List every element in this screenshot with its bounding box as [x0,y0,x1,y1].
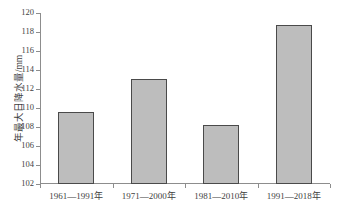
x-axis-label: 1991—2018年 [267,190,321,202]
y-tick-label: 102 [21,178,34,189]
x-tick-mark [40,184,41,188]
y-tick-label: 118 [22,26,34,37]
y-tick-mark [36,165,40,166]
y-tick-label: 104 [21,159,34,170]
x-tick-mark [258,184,259,188]
y-tick-label: 112 [22,83,34,94]
y-tick-label: 120 [21,7,34,18]
bar-chart: 年最大日降水量/mm 10210410610811011211411611812… [0,0,338,212]
y-tick-mark [36,127,40,128]
y-tick-label: 108 [21,121,34,132]
y-tick-label: 106 [21,140,34,151]
y-tick-mark [36,32,40,33]
y-tick-mark [36,146,40,147]
x-axis-label: 1981—2010年 [194,190,248,202]
y-tick-label: 116 [22,45,34,56]
bar [203,125,239,184]
x-tick-mark [330,184,331,188]
y-tick-mark [36,51,40,52]
x-tick-mark [185,184,186,188]
bar [58,112,94,184]
y-axis-line [40,13,41,184]
y-tick-mark [36,89,40,90]
y-tick-label: 114 [22,64,34,75]
plot-area: 102104106108110112114116118120 [40,13,330,184]
y-tick-label: 110 [22,102,34,113]
y-tick-mark [36,108,40,109]
x-axis-label: 1971—2000年 [122,190,176,202]
x-axis-label: 1961—1991年 [49,190,103,202]
bar [131,79,167,184]
y-tick-mark [36,13,40,14]
x-tick-mark [113,184,114,188]
y-tick-mark [36,70,40,71]
bar [276,25,312,184]
